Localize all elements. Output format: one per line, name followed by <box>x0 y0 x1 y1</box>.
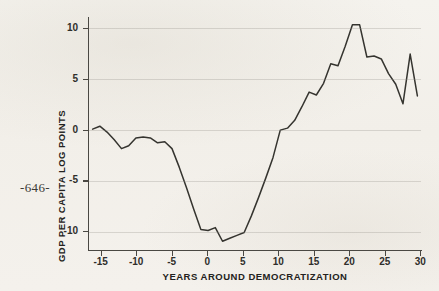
x-ticklabel--10: -10 <box>121 257 151 267</box>
y-tick--5 <box>83 180 88 181</box>
x-axis-spine <box>88 250 422 251</box>
x-ticklabel-10: 10 <box>263 257 293 267</box>
x-ticklabel-0: 0 <box>192 257 222 267</box>
x-ticklabel-25: 25 <box>370 257 400 267</box>
x-ticklabel--15: -15 <box>86 257 116 267</box>
y-tick-10 <box>83 28 88 29</box>
x-ticklabel-30: 30 <box>405 257 435 267</box>
figure-gdp-around-democratization: 10 5 0 -5 -10 -15 -10 -5 0 5 10 15 20 25… <box>0 0 439 291</box>
y-tick-0 <box>83 130 88 131</box>
gridline-10 <box>89 28 421 29</box>
x-ticklabel-15: 15 <box>299 257 329 267</box>
x-ticklabel-5: 5 <box>228 257 258 267</box>
y-ticklabel-10: 10 <box>52 23 78 33</box>
gridline--5 <box>89 181 421 182</box>
gdp-series-line <box>93 25 418 241</box>
plot-area <box>89 18 421 250</box>
x-ticklabel-20: 20 <box>334 257 364 267</box>
series-line-svg <box>89 18 421 250</box>
gridline-0 <box>89 130 421 131</box>
y-axis-label-wrapper: GDP PER CAPITA LOG POINTS <box>62 222 72 232</box>
y-tick-5 <box>83 79 88 80</box>
x-axis-label: YEARS AROUND DEMOCRATIZATION <box>89 271 421 282</box>
gridline--10 <box>89 232 421 233</box>
x-ticklabel--5: -5 <box>157 257 187 267</box>
y-axis-label: GDP PER CAPITA LOG POINTS <box>56 72 67 262</box>
y-tick--10 <box>83 231 88 232</box>
gridline-5 <box>89 79 421 80</box>
